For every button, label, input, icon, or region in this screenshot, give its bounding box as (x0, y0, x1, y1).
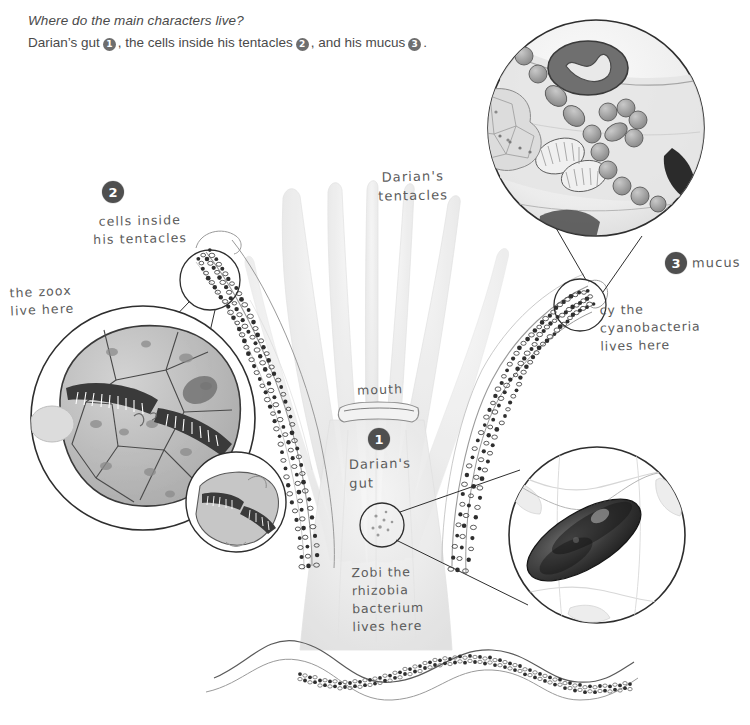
label-cyanobacteria: cy the cyanobacteria lives here (599, 298, 750, 356)
illustration-page: Where do the main characters live? Daria… (0, 0, 750, 725)
label-tentacles: Darian's tentacles (358, 167, 469, 207)
label-zoox-live-here: the zoox live here (9, 280, 120, 321)
inset-zoox-detail (186, 452, 286, 552)
label-mucus: mucus (692, 254, 741, 274)
badge-1: 1 (368, 428, 390, 450)
source-circle-tentacle-cells (180, 250, 240, 310)
inset-mucus (470, 20, 712, 238)
connector-mucus-b (603, 236, 642, 292)
label-gut: Darian's gut (349, 454, 440, 494)
badge-3: 3 (665, 252, 687, 274)
label-rhizobia: Zobi the rhizobia bacterium lives here (351, 562, 482, 637)
anemone-mouth (338, 402, 418, 422)
label-cells-inside-tentacles: cells inside his tentacles (80, 211, 201, 250)
badge-2: 2 (102, 181, 124, 203)
label-mouth: mouth (357, 380, 404, 400)
inset-gut-bacterium (508, 447, 688, 623)
